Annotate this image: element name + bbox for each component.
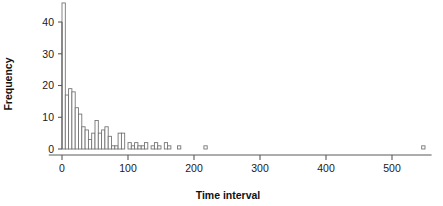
histogram-bar [105, 127, 108, 149]
x-axis-title: Time interval [196, 189, 261, 201]
histogram-bar [88, 139, 91, 149]
histogram-bar [95, 120, 98, 149]
histogram-bar [204, 146, 207, 149]
histogram-figure: 010203040 0100200300400500 Time interval… [0, 0, 443, 206]
histogram-bar [128, 143, 131, 149]
x-tick-label: 200 [185, 162, 203, 174]
y-tick-label: 0 [48, 143, 54, 155]
histogram-bar [75, 108, 78, 149]
histogram-bar [135, 143, 138, 149]
x-tick-label: 300 [251, 162, 269, 174]
histogram-bar [118, 133, 121, 149]
histogram-bar [158, 146, 161, 149]
histogram-bar [164, 143, 167, 149]
histogram-bar [115, 146, 118, 149]
x-tick-label: 500 [383, 162, 401, 174]
histogram-bar [178, 146, 181, 149]
x-axis-ticks: 0100200300400500 [59, 155, 401, 174]
histogram-bar [138, 146, 141, 149]
y-tick-label: 20 [42, 79, 54, 91]
histogram-bar [98, 133, 101, 149]
x-tick-label: 100 [119, 162, 137, 174]
histogram-bar [92, 133, 95, 149]
histogram-bar [151, 146, 154, 149]
y-axis-ticks: 010203040 [42, 16, 62, 155]
histogram-bar [79, 114, 82, 149]
y-tick-label: 30 [42, 48, 54, 60]
y-axis-title: Frequency [2, 57, 14, 110]
histogram-bar [154, 143, 157, 149]
histogram-bar [102, 130, 105, 149]
histogram-bar [112, 146, 115, 149]
histogram-canvas: 010203040 0100200300400500 Time interval… [0, 0, 443, 206]
axes-group: 010203040 0100200300400500 [42, 16, 431, 174]
histogram-bar [108, 136, 111, 149]
histogram-bar [72, 92, 75, 149]
histogram-bar [141, 146, 144, 149]
histogram-bar [168, 146, 171, 149]
y-tick-label: 40 [42, 16, 54, 28]
x-tick-label: 0 [59, 162, 65, 174]
bars-group [62, 3, 425, 149]
histogram-bar [65, 95, 68, 149]
histogram-bar [69, 89, 72, 149]
histogram-bar [145, 143, 148, 149]
histogram-bar [131, 146, 134, 149]
y-tick-label: 10 [42, 111, 54, 123]
histogram-bar [422, 146, 425, 149]
histogram-bar [82, 127, 85, 149]
histogram-bar [85, 130, 88, 149]
x-tick-label: 400 [317, 162, 335, 174]
histogram-bar [121, 133, 124, 149]
